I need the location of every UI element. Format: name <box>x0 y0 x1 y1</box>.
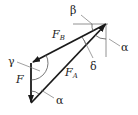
arc-beta <box>92 24 93 31</box>
vector-f-b <box>33 24 106 62</box>
leader-beta <box>81 15 92 24</box>
label-delta: δ <box>90 60 97 73</box>
leader-alpha-top <box>109 39 120 46</box>
force-triangle-diagram: β α δ γ α FB FA F <box>0 0 138 115</box>
label-beta: β <box>70 4 76 17</box>
leader-alpha-bottom <box>41 90 54 98</box>
label-alpha-bottom: α <box>56 94 64 107</box>
leader-gamma <box>17 62 40 71</box>
arc-alpha-bottom <box>31 91 39 94</box>
arc-delta <box>82 37 86 45</box>
label-f: F <box>15 73 24 86</box>
label-alpha-top: α <box>121 41 129 54</box>
label-f-a: FA <box>64 66 78 80</box>
label-f-b: FB <box>51 28 65 42</box>
label-gamma: γ <box>8 55 15 68</box>
arc-alpha-top <box>95 35 106 39</box>
